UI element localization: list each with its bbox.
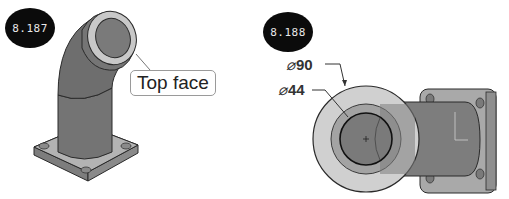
figure-8-188: 8.188 ⌀90 ⌀44 [250,0,509,199]
top-face-callout: Top face [130,70,216,96]
inner-diameter-label: ⌀44 [278,81,305,99]
outer-diameter-label: ⌀90 [286,56,313,74]
diameter-symbol: ⌀ [278,81,287,98]
outer-diameter-value: 90 [296,56,313,73]
figure-number-badge: 8.187 [5,8,55,48]
figure-number-badge: 8.188 [263,12,313,52]
inner-diameter-value: 44 [288,81,305,98]
diameter-symbol: ⌀ [286,56,295,73]
figure-8-187: 8.187 Top face [0,0,250,199]
